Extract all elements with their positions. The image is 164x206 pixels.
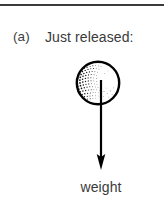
caption-row: (a) Just released:: [0, 27, 164, 47]
caption-text: Just released:: [45, 27, 134, 47]
ball-outline: [77, 62, 119, 104]
part-label: (a): [13, 27, 30, 47]
figure-panel: (a) Just released:: [0, 0, 164, 206]
weight-force-label-text: weight: [80, 179, 121, 195]
weight-force-arrow: [97, 80, 106, 170]
weight-force-label: weight: [0, 178, 164, 196]
top-divider-rule: [0, 4, 164, 6]
free-body-diagram: [0, 46, 164, 176]
